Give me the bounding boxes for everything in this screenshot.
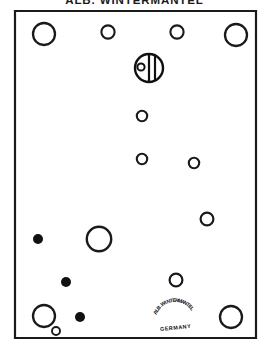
diagram-sheet: ALB. WINTERMANTEL ALB.WINTERMANTELGERMAN… xyxy=(0,0,269,349)
filled-dot xyxy=(75,312,85,322)
filled-dot xyxy=(33,234,43,244)
plate-frame xyxy=(15,11,256,338)
plate-drawing: ALB.WINTERMANTELGERMANY xyxy=(0,0,269,349)
filled-dot xyxy=(61,277,71,287)
maker-emblem xyxy=(135,54,163,82)
